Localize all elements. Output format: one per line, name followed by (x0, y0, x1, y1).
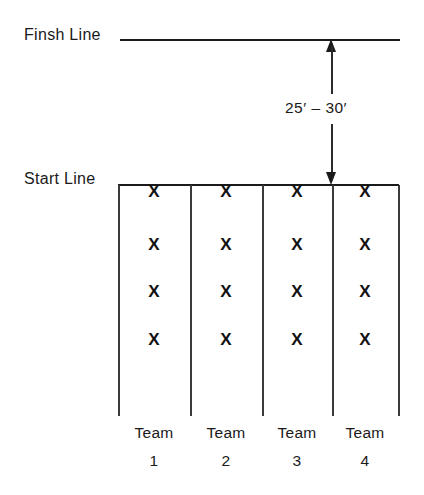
team-label-3: Team (277, 424, 316, 442)
team-label-4: Team (345, 424, 384, 442)
player-marker: X (148, 182, 159, 202)
team-number-4: 4 (361, 452, 370, 470)
player-marker: X (148, 330, 159, 350)
player-marker: X (148, 235, 159, 255)
relay-formation-diagram: Finsh Line Start Line 25′ – 30′ XXXXTeam… (0, 0, 424, 495)
player-marker: X (220, 282, 231, 302)
dimension-line-lower (331, 124, 333, 178)
player-marker: X (291, 330, 302, 350)
dimension-line-upper (331, 46, 333, 94)
player-marker: X (291, 235, 302, 255)
distance-label: 25′ – 30′ (285, 99, 347, 117)
team-number-3: 3 (293, 452, 302, 470)
player-marker: X (359, 282, 370, 302)
player-marker: X (148, 282, 159, 302)
player-marker: X (220, 182, 231, 202)
player-marker: X (291, 182, 302, 202)
start-line-label: Start Line (24, 170, 95, 188)
lane-divider-2 (262, 185, 264, 416)
player-marker: X (291, 282, 302, 302)
finish-line (120, 39, 400, 41)
player-marker: X (359, 182, 370, 202)
player-marker: X (359, 330, 370, 350)
lane-divider-3 (332, 185, 334, 416)
team-label-1: Team (134, 424, 173, 442)
arrow-down-icon (326, 172, 336, 185)
lane-divider-4 (398, 185, 400, 416)
team-number-2: 2 (222, 452, 231, 470)
lane-divider-0 (118, 185, 120, 416)
lane-divider-1 (190, 185, 192, 416)
player-marker: X (220, 330, 231, 350)
team-number-1: 1 (150, 452, 159, 470)
finish-line-label: Finsh Line (24, 26, 101, 44)
start-line (118, 184, 399, 186)
player-marker: X (220, 235, 231, 255)
player-marker: X (359, 235, 370, 255)
team-label-2: Team (206, 424, 245, 442)
